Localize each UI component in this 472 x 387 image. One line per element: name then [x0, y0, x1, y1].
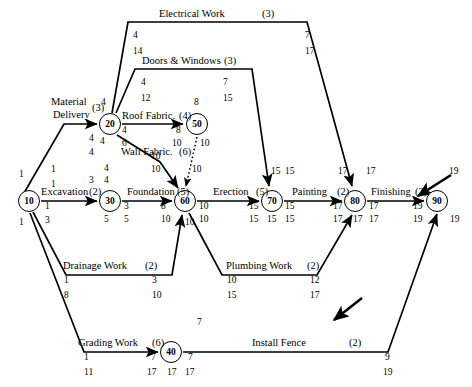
time-doors-windows-head-early: 7: [223, 78, 228, 88]
time-material-delivery-tail-late: 1: [51, 180, 56, 190]
time-plumbing-head-late: 17: [310, 291, 320, 301]
activity-label-grading: Grading Work: [78, 338, 138, 349]
activity-label-material-delivery-line2: Delivery: [53, 110, 90, 121]
time-node10-top: 1: [19, 170, 24, 180]
time-node30-above-late: 4: [104, 176, 109, 186]
activity-duration-roof-fabric: (4): [179, 111, 191, 122]
time-grading-tail-early: 1: [84, 353, 89, 363]
time-node20-top: 4: [101, 98, 106, 108]
activity-label-excavation: Excavation: [41, 187, 88, 198]
edge-dummy-50-60: [186, 137, 197, 186]
time-material-delivery-tail-early: 1: [51, 165, 56, 175]
time-node30-below-left: 5: [104, 215, 109, 225]
time-node20-below-left: 4: [100, 137, 105, 147]
activity-label-erection: Erection: [213, 187, 249, 198]
time-node30-above-early: 4: [104, 164, 109, 174]
time-drainage-tail-early: 1: [64, 276, 69, 286]
time-finishing-tail-late: 17: [369, 215, 379, 225]
node-10[interactable]: 10: [18, 190, 42, 214]
time-electrical-tail-late: 14: [133, 47, 143, 57]
time-install-fence-head-late: 19: [383, 368, 393, 378]
activity-duration-grading: (6): [152, 338, 164, 349]
time-node80-left-late: 17: [333, 215, 343, 225]
activity-duration-foundation: (5): [177, 187, 189, 198]
time-node90-right: 19: [450, 215, 460, 225]
time-node80-top: 17: [366, 167, 376, 177]
time-node80-bottom: 17: [353, 215, 363, 225]
activity-duration-plumbing: (2): [307, 261, 319, 272]
activity-duration-finishing: (2): [415, 187, 427, 198]
time-electrical-tail-early: 4: [133, 31, 138, 41]
time-node50-top: 8: [194, 98, 199, 108]
activity-duration-drainage: (2): [145, 261, 157, 272]
time-foundation-head-late: 10: [161, 215, 171, 225]
activity-label-drainage: Drainage Work: [63, 261, 127, 272]
activity-duration-electrical: (3): [262, 9, 274, 20]
time-node50-left-late: 10: [172, 139, 182, 149]
time-node20-left-late: 4: [89, 148, 94, 158]
time-node40-top: 7: [197, 318, 202, 328]
activity-duration-erection: (5): [256, 187, 268, 198]
time-node90-left-late: 19: [413, 215, 423, 225]
time-node30-left: 3: [89, 176, 94, 186]
node-90-label: 90: [426, 190, 448, 212]
time-electrical-head-early: 7: [305, 31, 310, 41]
node-20[interactable]: 20: [99, 113, 123, 137]
time-install-fence-head-early: 9: [385, 353, 390, 363]
time-electrical-head-late: 17: [305, 47, 315, 57]
time-plumbing-tail-early: 10: [227, 276, 237, 286]
time-doors-windows-tail-late: 12: [141, 94, 151, 104]
time-excavation-tail-late: 3: [45, 216, 50, 226]
activity-duration-install-fence: (2): [349, 338, 361, 349]
activity-label-material-delivery-line1: Material: [51, 97, 87, 108]
time-node40-bottom: 17: [167, 368, 177, 378]
node-10-label: 10: [18, 190, 40, 212]
activity-duration-wall-fabric: (6): [179, 147, 191, 158]
time-erection-tail-late: 10: [199, 215, 209, 225]
activity-label-wall-fabric: Wall Fabric.: [121, 147, 173, 158]
activity-label-install-fence: Install Fence: [252, 338, 306, 349]
time-erection-tail-early: 10: [199, 202, 209, 212]
time-node20-left-early: 4: [89, 134, 94, 144]
edge-electrical: [112, 22, 352, 186]
node-90[interactable]: 90: [426, 190, 450, 214]
time-node40-left-early: 7: [151, 353, 156, 363]
activity-label-painting: Painting: [292, 187, 327, 198]
time-finishing-tail-early: 17: [369, 202, 379, 212]
activity-duration-doors-windows: (3): [224, 56, 236, 67]
time-node40-right-late: 17: [185, 368, 195, 378]
time-node70-top: 15: [285, 167, 295, 177]
activity-label-doors-windows: Doors & Windows: [142, 56, 221, 67]
node-30-label: 30: [99, 190, 121, 212]
activity-duration-painting: (2): [337, 187, 349, 198]
time-foundation-head-early: 8: [161, 202, 166, 212]
activity-duration-excavation: (2): [89, 187, 101, 198]
time-painting-tail-late: 15: [285, 215, 295, 225]
time-node70-bottom: 15: [267, 215, 277, 225]
time-node10-bottom: 1: [19, 218, 24, 228]
activity-label-finishing: Finishing: [371, 187, 411, 198]
node-20-label: 20: [99, 113, 121, 135]
time-node80-left-early: 17: [333, 202, 343, 212]
time-node90-left-early: 19: [413, 202, 423, 212]
edge-grading: [30, 213, 158, 352]
time-drainage-head-early: 3: [152, 276, 157, 286]
time-node50-left-early: 8: [176, 126, 181, 136]
time-node60-bottom: 10: [185, 218, 195, 228]
time-wall-fabric-head-early: 10: [151, 152, 161, 162]
activity-label-plumbing: Plumbing Work: [226, 261, 292, 272]
activity-label-roof-fabric: Roof Fabric.: [122, 111, 175, 122]
time-node70-left-late: 15: [249, 215, 259, 225]
time-grading-tail-late: 11: [84, 368, 93, 378]
time-doors-windows-head-at-70: 15: [271, 167, 281, 177]
activity-label-foundation: Foundation: [127, 187, 175, 198]
network-diagram-canvas: 10 20 30 40 50 60 70 80 90 Material Deli…: [0, 0, 472, 387]
time-electrical-head-at-80: 17: [338, 167, 348, 177]
time-roof-fabric-tail-early: 4: [122, 126, 127, 136]
time-doors-windows-tail-early: 4: [141, 78, 146, 88]
time-plumbing-head-early: 12: [310, 276, 320, 286]
annotation-arrow-bottom: [334, 298, 362, 320]
time-wall-fabric-head-late: 10: [151, 165, 161, 175]
node-30[interactable]: 30: [99, 190, 123, 214]
time-node90-top: 19: [449, 167, 459, 177]
